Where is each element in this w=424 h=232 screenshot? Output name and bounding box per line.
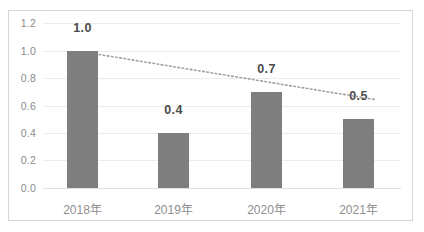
bar-2021[interactable] (343, 119, 374, 188)
plot-area: 1.2 1.0 0.8 0.6 0.4 0.2 0.0 1.0 0.4 0.7 … (43, 23, 401, 188)
gridline-0.0 (43, 188, 401, 189)
y-axis-tick-label: 0.0 (21, 182, 36, 194)
bar-2018[interactable] (67, 51, 98, 188)
y-axis-tick-label: 0.2 (21, 154, 36, 166)
x-axis-label-2018: 2018年 (63, 200, 102, 217)
chart-frame: 1.2 1.0 0.8 0.6 0.4 0.2 0.0 1.0 0.4 0.7 … (8, 10, 413, 221)
y-axis-tick-label: 1.2 (21, 17, 36, 29)
x-axis-label-2020: 2020年 (247, 200, 286, 217)
bar-2019[interactable] (158, 133, 189, 188)
y-axis-tick-label: 0.6 (21, 100, 36, 112)
gridline-1.2 (43, 23, 401, 24)
x-axis-label-2021: 2021年 (339, 200, 378, 217)
data-label-2018: 1.0 (73, 21, 91, 35)
y-axis-tick-label: 0.4 (21, 127, 36, 139)
data-label-2020: 0.7 (257, 62, 275, 76)
x-axis-label-2019: 2019年 (154, 200, 193, 217)
data-label-2019: 0.4 (164, 103, 182, 117)
bar-2020[interactable] (251, 92, 282, 188)
y-axis-tick-label: 0.8 (21, 72, 36, 84)
y-axis-tick-label: 1.0 (21, 45, 36, 57)
data-label-2021: 0.5 (349, 89, 367, 103)
